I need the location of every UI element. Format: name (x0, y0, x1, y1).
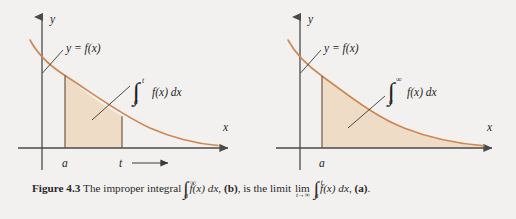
integral-upper-limit-2: t (321, 178, 323, 188)
tick-label-a: a (62, 157, 68, 169)
caption-integral-definite: ∫ta (314, 181, 319, 199)
x-axis-label-b: x (486, 121, 493, 133)
caption-text-intro: The improper integral (83, 182, 181, 194)
tick-label-t: t (119, 157, 123, 169)
shaded-region-a-to-infinity (322, 76, 486, 148)
shaded-region-a-to-t (65, 76, 122, 149)
curve-label-b: y = f(x) (323, 42, 359, 55)
integral-lower-b: a (389, 97, 393, 106)
curve-label-a: y = f(x) (65, 42, 101, 55)
panel-b-group: y x a y = f(x) ∫ ∞ a f(x) dx (276, 13, 493, 170)
caption-limit-operator: limt→∞ (295, 181, 310, 196)
figure-container: y x a t y = f(x) ∫ t a f(x) dx (0, 0, 516, 219)
integral-upper-a: t (142, 76, 145, 85)
figure-caption: Figure 4.3 The improper integral∫∞af(x) … (32, 181, 488, 199)
caption-text-end: . (368, 182, 371, 194)
caption-ref-a: (a) (355, 182, 368, 194)
caption-ref-b: (b) (224, 182, 238, 194)
y-axis-label-b: y (307, 13, 314, 26)
y-axis-label-a: y (49, 13, 56, 26)
x-axis-label-a: x (222, 121, 229, 133)
integral-upper-limit-1: ∞ (190, 178, 195, 188)
figure-number: Figure 4.3 (32, 182, 80, 194)
integral-lower-limit-1: a (184, 191, 188, 201)
integral-integrand-a: f(x) dx (152, 86, 183, 99)
integral-integrand-b: f(x) dx (407, 86, 438, 99)
integral-lower-a: a (134, 97, 138, 106)
tick-label-a-b: a (319, 157, 325, 169)
caption-integrand-2: f(x) dx (320, 182, 349, 194)
panel-a-group: y x a t y = f(x) ∫ t a f(x) dx (18, 13, 229, 170)
caption-integral-improper: ∫∞a (183, 181, 188, 199)
caption-text-3: , is the limit (238, 182, 291, 194)
leader-line-curve-a (43, 50, 64, 73)
lim-subscript: t→∞ (296, 191, 310, 200)
integral-upper-b: ∞ (396, 75, 402, 84)
integral-lower-limit-2: a (315, 191, 319, 201)
